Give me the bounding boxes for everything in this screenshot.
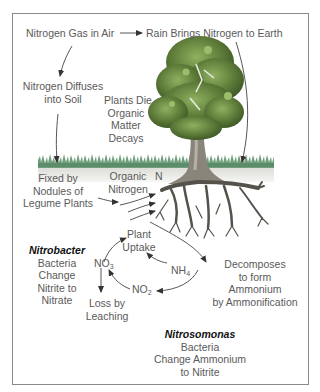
chem-subscript: 2 <box>148 289 152 296</box>
label-line: Matter <box>104 119 148 132</box>
chem-base: NO <box>94 257 110 269</box>
arrow-nh4-to-uptake <box>147 253 167 263</box>
arrow-no2-to-no3 <box>109 270 130 289</box>
label-line: Organic <box>106 170 150 183</box>
label-line: Fixed by <box>20 172 96 185</box>
label-line: Bacteria <box>150 341 250 354</box>
chem-base: NH <box>171 264 186 276</box>
label-line: by Ammonification <box>210 296 300 309</box>
label-line: Decomposes <box>210 258 300 271</box>
label-line: Nitrogen <box>106 183 150 196</box>
nitrosomonas-title: Nitrosomonas <box>150 328 250 341</box>
label-line: Plants Die <box>104 94 148 107</box>
label-line: into Soil <box>22 93 104 106</box>
label-line: Change <box>26 269 88 282</box>
chem-no2: NO2 <box>132 283 152 296</box>
label-line: to Nitrite <box>150 366 250 379</box>
tree-roots <box>156 182 268 238</box>
label-line: Leaching <box>84 310 130 323</box>
label-decomposes: Decomposes to form Ammonium by Ammonific… <box>210 258 300 308</box>
arrow-diffuses-to-ground <box>56 114 58 162</box>
tree-foliage <box>148 36 244 140</box>
label-line: Nitrite to <box>26 282 88 295</box>
label-line: Decays <box>104 132 148 145</box>
label-organic-nitrogen: Organic Nitrogen <box>106 170 150 195</box>
label-line: Change Ammonium <box>150 353 250 366</box>
chem-subscript: 4 <box>186 270 190 277</box>
chem-nh4: NH4 <box>171 264 190 277</box>
chem-no3: NO3 <box>94 257 114 270</box>
label-line: Ammonium <box>210 283 300 296</box>
label-line: Nitrate <box>26 294 88 307</box>
label-line: Bacteria <box>26 257 88 270</box>
chem-base: NO <box>132 283 148 295</box>
label-line: Plant <box>120 228 158 241</box>
label-line: Uptake <box>120 241 158 254</box>
label-line: Legume Plants <box>20 197 96 210</box>
label-line: Nitrogen Diffuses <box>22 80 104 93</box>
label-nitrogen-diffuses: Nitrogen Diffuses into Soil <box>22 80 104 105</box>
arrow-organic-1 <box>120 194 155 205</box>
label-line: to form <box>210 271 300 284</box>
label-rain: Rain Brings Nitrogen to Earth <box>146 27 283 40</box>
label-fixed-by-nodules: Fixed by Nodules of Legume Plants <box>20 172 96 210</box>
label-n-symbol: N <box>155 170 163 183</box>
label-loss-by-leaching: Loss by Leaching <box>84 297 130 322</box>
label-nitrogen-gas: Nitrogen Gas in Air <box>26 27 114 40</box>
label-line: Loss by <box>84 297 130 310</box>
chem-subscript: 3 <box>110 263 114 270</box>
grass-icon <box>38 154 274 168</box>
label-plant-uptake: Plant Uptake <box>120 228 158 253</box>
nitrobacter-title: Nitrobacter <box>26 244 88 257</box>
arrow-fixed <box>98 198 118 202</box>
arrow-gas-to-diffuses <box>60 46 72 76</box>
label-plants-die: Plants Die Organic Matter Decays <box>104 94 148 144</box>
label-line: Nodules of <box>20 185 96 198</box>
arrow-organic-3 <box>130 211 155 220</box>
arrow-organic-2 <box>128 203 155 212</box>
label-line: Organic <box>104 107 148 120</box>
label-nitrosomonas: Nitrosomonas Bacteria Change Ammonium to… <box>150 328 250 378</box>
label-nitrobacter: Nitrobacter Bacteria Change Nitrite to N… <box>26 244 88 307</box>
